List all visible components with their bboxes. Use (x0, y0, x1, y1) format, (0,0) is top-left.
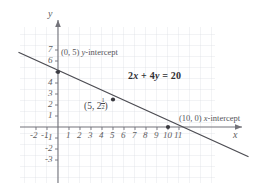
equation-annotation: 2x + 4y = 20 (128, 71, 181, 81)
x-tick-label: 10 (163, 131, 172, 140)
x-tick-label: 7 (132, 131, 137, 140)
equation-tail: = 20 (160, 70, 182, 81)
x-tick-label: 4 (99, 131, 104, 140)
x-tick-label: 3 (88, 131, 93, 140)
point-x-intercept (166, 125, 170, 129)
midpoint-close: ) (105, 101, 108, 111)
y-tick-label: 1 (48, 111, 53, 120)
y-intercept-coords: (0, 5) (61, 47, 82, 57)
midpoint-open: (5, (84, 101, 97, 111)
y-tick-label: 6 (48, 56, 53, 65)
x-axis-label: x (233, 130, 237, 140)
y-tick-label: -2 (45, 144, 53, 153)
x-tick-label: 6 (121, 131, 126, 140)
x-tick-label: 9 (154, 131, 159, 140)
y-intercept-suffix: -intercept (85, 47, 118, 57)
x-intercept-suffix: -intercept (208, 113, 241, 123)
midpoint-annotation: (5, 212) (84, 98, 108, 112)
x-tick-label: 8 (143, 131, 148, 140)
x-tick-label: -2 (30, 131, 38, 140)
graph-figure: y x -2 -1 1 2 3 4 5 6 7 8 9 10 11 7 6 4 … (0, 0, 270, 194)
y-tick-label: 4 (48, 78, 53, 87)
y-tick-label: 7 (48, 45, 53, 54)
x-tick-label: 2 (77, 131, 82, 140)
midpoint-fraction: 12 (101, 97, 104, 111)
x-tick-label: 5 (110, 131, 115, 140)
y-tick-label: 3 (48, 89, 53, 98)
point-midpoint (111, 97, 115, 101)
y-tick-label: -3 (45, 155, 53, 164)
coordinate-plane (0, 0, 270, 194)
y-axis-label: y (48, 9, 52, 19)
equation-mid: + 4 (138, 70, 155, 81)
y-tick-label: -1 (45, 133, 53, 142)
x-tick-label: 11 (174, 131, 182, 140)
x-tick-label: 1 (66, 131, 71, 140)
y-tick-label: 2 (48, 100, 53, 109)
point-y-intercept (56, 70, 60, 74)
y-axis-arrow (55, 20, 61, 27)
x-intercept-annotation: (10, 0) x-intercept (179, 114, 240, 123)
y-intercept-annotation: (0, 5) y-intercept (61, 48, 118, 57)
fraction-denominator: 2 (101, 103, 104, 110)
x-intercept-coords: (10, 0) (179, 113, 204, 123)
